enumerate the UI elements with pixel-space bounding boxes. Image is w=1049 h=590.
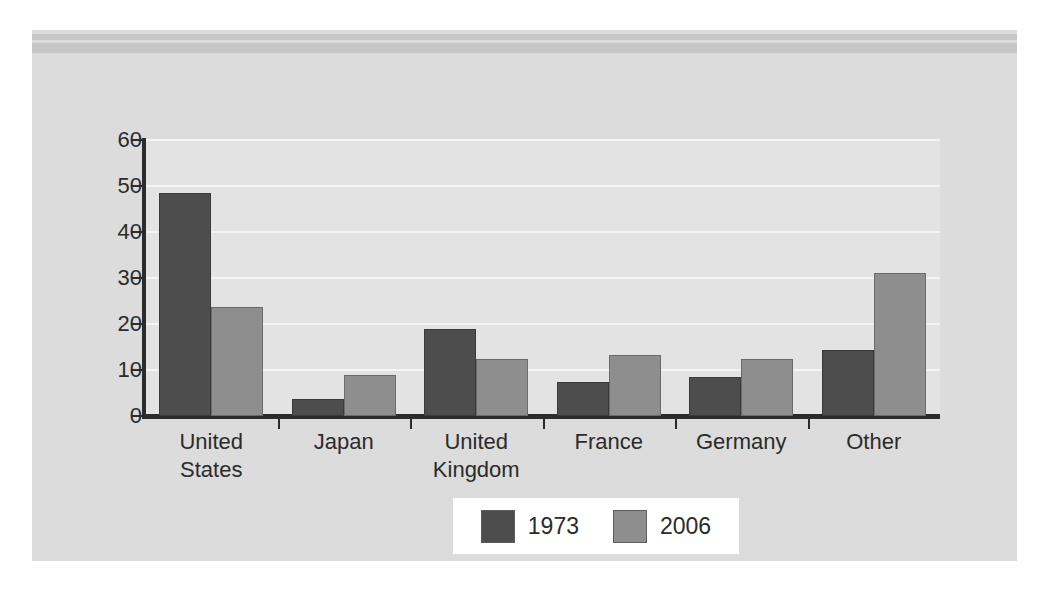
gridline [145,185,940,187]
bar-2006-3 [476,359,528,416]
y-axis-line [142,138,146,418]
x-axis-label: United States [145,428,278,483]
gridline [145,323,940,325]
bar-1973-1 [159,193,211,416]
legend-swatch-1973 [481,510,515,543]
y-axis-tick-label: 40 [96,221,142,243]
y-axis-tick-label: 30 [96,267,142,289]
bar-1973-5 [689,377,741,416]
x-axis-label: Japan [278,428,411,456]
bar-1973-6 [822,350,874,416]
banner-stripe-upper [32,34,1017,40]
legend-item-2006: 2006 [613,510,711,543]
bar-2006-6 [874,273,926,416]
x-axis-label: Germany [675,428,808,456]
x-axis-label: France [543,428,676,456]
chart-legend: 1973 2006 [453,498,739,554]
figure-panel: 0102030405060 United StatesJapanUnited K… [32,30,1017,561]
y-axis-tick-label: 50 [96,175,142,197]
bar-2006-2 [344,375,396,416]
x-axis-label: United Kingdom [410,428,543,483]
bar-2006-5 [741,359,793,416]
y-axis-tick-label: 60 [96,129,142,151]
y-axis-tick-label: 20 [96,313,142,335]
y-axis-tick-label: 0 [96,405,142,427]
gridline [145,277,940,279]
bar-1973-4 [557,382,609,416]
bar-1973-3 [424,329,476,416]
y-axis-tick-label: 10 [96,359,142,381]
legend-label-1973: 1973 [528,515,579,538]
gridline [145,231,940,233]
legend-item-1973: 1973 [481,510,579,543]
gridline [145,369,940,371]
banner-stripe-lower [32,43,1017,53]
bar-chart: 0102030405060 United StatesJapanUnited K… [32,56,1017,561]
bar-1973-2 [292,399,344,416]
decorative-banner [32,30,1017,56]
legend-swatch-2006 [613,510,647,543]
legend-label-2006: 2006 [660,515,711,538]
bar-2006-1 [211,307,263,416]
x-axis-label: Other [808,428,941,456]
bar-2006-4 [609,355,661,416]
page-root: 0102030405060 United StatesJapanUnited K… [0,0,1049,590]
gridline [145,139,940,141]
